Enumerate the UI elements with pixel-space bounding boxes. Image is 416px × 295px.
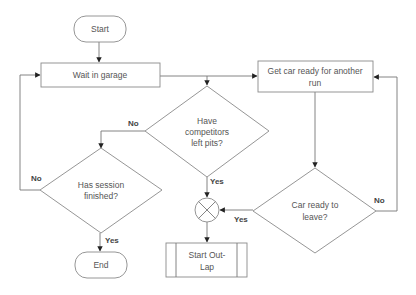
get-car-ready-label-line2: run xyxy=(309,78,322,88)
car-ready-label-line2: leave? xyxy=(302,212,327,222)
get-car-ready-process: Get car ready for another run xyxy=(258,61,373,92)
start-label: Start xyxy=(91,24,110,34)
edge-label-competitors-yes: Yes xyxy=(210,177,224,186)
session-label-line2: finished? xyxy=(84,191,118,201)
start-outlap-label-line1: Start Out- xyxy=(189,250,226,260)
start-outlap-label-line2: Lap xyxy=(200,262,214,272)
competitors-left-decision: Have competitors left pits? xyxy=(145,86,269,177)
competitors-label-line1: Have xyxy=(197,116,217,126)
car-ready-label-line1: Car ready to xyxy=(292,200,339,210)
edge-label-car-ready-yes: Yes xyxy=(234,215,248,224)
session-finished-decision: Has session finished? xyxy=(40,148,162,233)
competitors-label-line2: competitors xyxy=(185,127,229,137)
flowchart-canvas: Start Wait in garage Get car ready for a… xyxy=(0,0,416,295)
start-terminator: Start xyxy=(74,16,126,42)
end-terminator: End xyxy=(75,252,127,278)
edge-label-competitors-no: No xyxy=(128,119,139,128)
end-label: End xyxy=(93,260,108,270)
competitors-label-line3: left pits? xyxy=(191,138,223,148)
wait-in-garage-process: Wait in garage xyxy=(41,63,160,87)
edge-car-ready-no xyxy=(374,77,397,211)
start-outlap-predefined-process: Start Out- Lap xyxy=(166,243,247,277)
edge-competitors-no xyxy=(101,131,145,148)
summing-junction-icon xyxy=(195,198,219,222)
get-car-ready-label-line1: Get car ready for another xyxy=(268,66,363,76)
edge-label-car-ready-no: No xyxy=(374,196,385,205)
edge-label-session-yes: Yes xyxy=(105,236,119,245)
edge-label-session-no: No xyxy=(31,174,42,183)
session-label-line1: Has session xyxy=(78,180,125,190)
car-ready-leave-decision: Car ready to leave? xyxy=(253,168,376,253)
edge-session-no xyxy=(20,75,40,190)
wait-in-garage-label: Wait in garage xyxy=(73,70,128,80)
